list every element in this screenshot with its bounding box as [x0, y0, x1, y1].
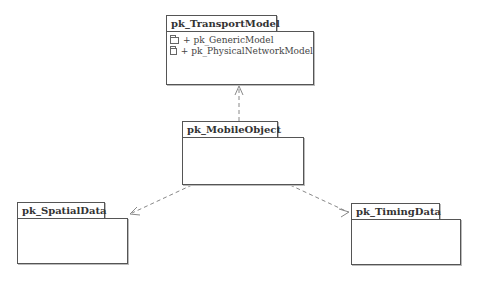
- package-tab: pk_TimingData: [351, 203, 440, 219]
- package-body: [351, 219, 461, 265]
- package-name: pk_MobileObject: [183, 122, 277, 135]
- package-tab: pk_TransportModel: [166, 15, 277, 31]
- package-body: + pk_GenericModel + pk_PhysicalNetworkMo…: [166, 31, 314, 85]
- member-label: + pk_PhysicalNetworkModel: [181, 46, 313, 57]
- member-label: + pk_GenericModel: [183, 35, 274, 46]
- arrowhead-spatial: [130, 207, 140, 215]
- arrowhead-timing: [339, 209, 349, 217]
- package-name: pk_TimingData: [352, 204, 439, 217]
- package-tab: pk_SpatialData: [17, 202, 105, 218]
- package-name: pk_SpatialData: [18, 203, 104, 216]
- package-body: [182, 137, 304, 185]
- package-body: [17, 218, 128, 264]
- member-physical-network-model[interactable]: + pk_PhysicalNetworkModel: [167, 46, 313, 57]
- dependency-mobile-to-timing: [290, 185, 348, 212]
- package-tab: pk_MobileObject: [182, 121, 278, 137]
- package-name: pk_TransportModel: [167, 16, 276, 29]
- folder-icon: [170, 37, 179, 44]
- folder-icon: [170, 48, 177, 55]
- dependency-mobile-to-spatial: [132, 185, 192, 213]
- member-generic-model[interactable]: + pk_GenericModel: [167, 35, 313, 46]
